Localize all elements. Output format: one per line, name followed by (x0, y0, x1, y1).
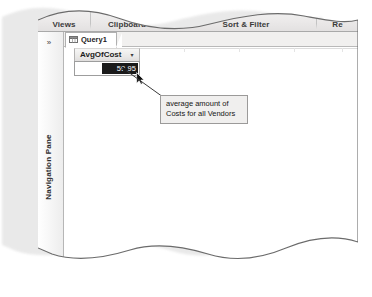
callout-annotation: average amount of Costs for all Vendors (160, 95, 248, 124)
ribbon-group-views-label: Views (38, 20, 90, 29)
callout-line-2: Costs for all Vendors (166, 109, 244, 119)
query-datasheet-icon (69, 35, 78, 44)
figure-page: Views Clipboard ⎒ Sort & Filter Re (0, 0, 372, 297)
figure-content: Views Clipboard ⎒ Sort & Filter Re (38, 6, 358, 278)
document-tab-row: Query1 (64, 32, 358, 47)
navigation-pane-label: Navigation Pane (44, 107, 58, 227)
ribbon-group-records-label: Re (317, 20, 358, 29)
access-screenshot-figure: Views Clipboard ⎒ Sort & Filter Re (38, 6, 358, 278)
callout-leader-line (121, 66, 165, 99)
callout-text: average amount of Costs for all Vendors (166, 99, 244, 119)
navigation-pane[interactable]: » Navigation Pane (38, 32, 64, 278)
navigation-pane-expand-icon[interactable]: » (43, 37, 55, 48)
grid-column-tick (239, 48, 240, 52)
column-header-dropdown-icon[interactable]: ▾ (129, 53, 135, 58)
grid-top-line (138, 48, 358, 49)
document-tab-query1[interactable]: Query1 (65, 32, 117, 48)
callout-line-1: average amount of (166, 99, 244, 109)
grid-column-tick (184, 48, 185, 52)
document-tab-label: Query1 (81, 35, 107, 44)
grid-column-tick (342, 48, 343, 52)
grid-column-tick (294, 48, 295, 52)
